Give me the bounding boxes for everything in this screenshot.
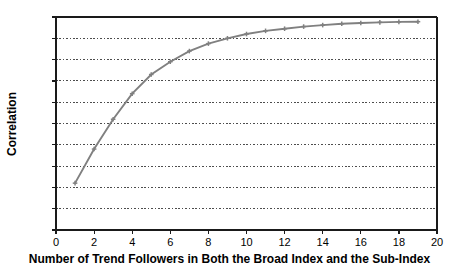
x-axis-tick-labels: 02468101214161820 (0, 0, 459, 276)
x-tick-label: 10 (235, 237, 259, 248)
x-tick-label: 14 (311, 237, 335, 248)
x-tick-label: 2 (82, 237, 106, 248)
x-tick-label: 6 (158, 237, 182, 248)
x-tick-label: 20 (425, 237, 449, 248)
x-tick-label: 8 (196, 237, 220, 248)
chart-figure: Correlation 0.00.10.20.30.40.50.60.70.80… (0, 0, 459, 276)
x-tick-label: 4 (120, 237, 144, 248)
x-axis-label: Number of Trend Followers in Both the Br… (0, 252, 459, 266)
x-tick-label: 0 (44, 237, 68, 248)
x-tick-label: 18 (387, 237, 411, 248)
x-tick-label: 16 (349, 237, 373, 248)
x-tick-label: 12 (273, 237, 297, 248)
